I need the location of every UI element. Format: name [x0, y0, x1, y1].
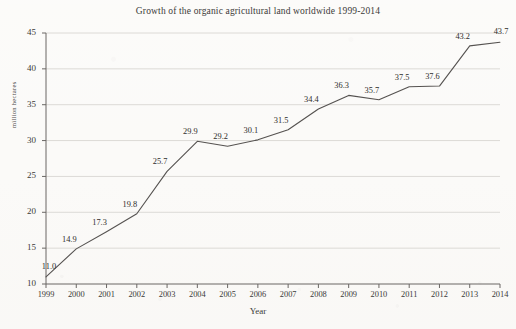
data-point-label: 31.5 [264, 116, 298, 125]
y-axis-tick-label: 25 [10, 170, 36, 180]
data-point-label: 30.1 [234, 126, 268, 135]
gridlines [46, 33, 500, 248]
data-point-label: 35.7 [355, 86, 389, 95]
y-axis-tick-label: 15 [10, 242, 36, 252]
y-axis-tick-label: 10 [10, 278, 36, 288]
data-point-label: 43.7 [484, 27, 516, 36]
data-point-label: 25.7 [143, 157, 177, 166]
axis-lines [46, 33, 500, 284]
y-axis-tick-label: 45 [10, 27, 36, 37]
y-axis-tick-label: 40 [10, 63, 36, 73]
chart-figure: Growth of the organic agricultural land … [0, 0, 516, 329]
plot-area [0, 0, 516, 329]
y-axis-label: million hectares [10, 38, 17, 128]
data-point-label: 17.3 [83, 218, 117, 227]
y-axis-tick-label: 35 [10, 99, 36, 109]
x-axis-ticks [46, 284, 500, 288]
data-point-label: 36.3 [325, 81, 359, 90]
y-axis-tick-label: 20 [10, 206, 36, 216]
data-point-label: 37.6 [415, 72, 449, 81]
data-point-label: 43.2 [446, 32, 480, 41]
data-point-label: 29.2 [204, 132, 238, 141]
data-point-label: 34.4 [294, 95, 328, 104]
data-point-label: 29.9 [173, 127, 207, 136]
data-point-label: 11.0 [32, 262, 66, 271]
y-axis-tick-label: 30 [10, 135, 36, 145]
data-point-label: 19.8 [113, 200, 147, 209]
x-axis-tick-label: 2014 [480, 290, 516, 299]
x-axis-label: Year [0, 306, 516, 316]
y-axis-ticks [42, 33, 46, 284]
data-point-label: 37.5 [385, 73, 419, 82]
data-point-label: 14.9 [52, 235, 86, 244]
chart-title: Growth of the organic agricultural land … [0, 6, 516, 16]
